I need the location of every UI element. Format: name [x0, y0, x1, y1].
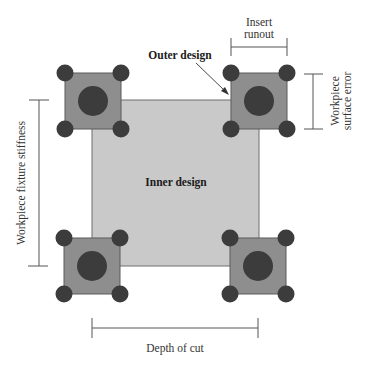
insert-top-left [57, 65, 130, 138]
fixture-stiffness-bracket [28, 100, 49, 266]
depth-of-cut-bracket [92, 318, 258, 338]
design-diagram: Insert runout Workpiece surface error Wo… [0, 0, 365, 367]
insert-bottom-left [56, 230, 129, 303]
insert-top-right [223, 65, 296, 138]
inner-design-label: Inner design [145, 176, 207, 189]
fixture-stiffness-label: Workpiece fixture stiffness [15, 120, 28, 245]
insert-runout-bracket [231, 38, 287, 56]
surface-error-label-line2: surface error [341, 72, 353, 131]
outer-design-arrow [196, 63, 229, 95]
surface-error-bracket [304, 74, 323, 129]
insert-bottom-right [222, 230, 295, 303]
outer-design-label: Outer design [148, 49, 212, 62]
depth-of-cut-label: Depth of cut [146, 342, 204, 355]
insert-runout-label-line1: Insert [246, 16, 273, 28]
insert-runout-label-line2: runout [244, 28, 275, 40]
